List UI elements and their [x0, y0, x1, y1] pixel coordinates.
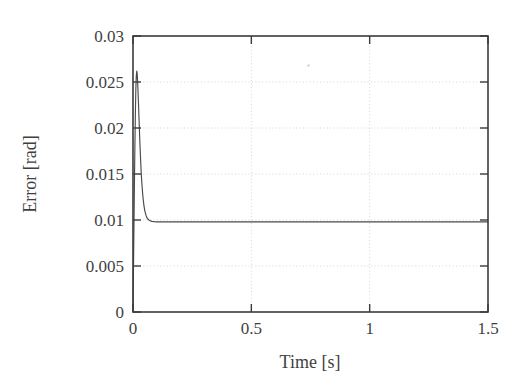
x-tick-label: 1: [365, 319, 374, 338]
scan-speck: [308, 65, 310, 67]
y-tick-label: 0.02: [94, 119, 124, 138]
x-tick-labels: 00.511.5: [129, 319, 499, 338]
horizontal-gridlines: [133, 82, 488, 266]
x-tick-label: 0: [129, 319, 138, 338]
gridlines: [133, 36, 488, 312]
y-tick-label: 0.015: [86, 165, 124, 184]
plot-canvas: 00.0050.010.0150.020.0250.03 00.511.5 Ti…: [0, 0, 524, 382]
error-vs-time-figure: 00.0050.010.0150.020.0250.03 00.511.5 Ti…: [0, 0, 524, 382]
y-tick-labels: 00.0050.010.0150.020.0250.03: [86, 27, 124, 322]
y-tick-label: 0.03: [94, 27, 124, 46]
y-tick-label: 0.025: [86, 73, 124, 92]
x-axis-title: Time [s]: [280, 352, 341, 372]
y-axis-title: Error [rad]: [20, 135, 40, 212]
x-tick-label: 0.5: [241, 319, 262, 338]
x-tick-label: 1.5: [477, 319, 498, 338]
error-curve: [133, 71, 488, 310]
y-tick-label: 0.01: [94, 211, 124, 230]
y-tick-label: 0: [116, 303, 125, 322]
y-tick-label: 0.005: [86, 257, 124, 276]
